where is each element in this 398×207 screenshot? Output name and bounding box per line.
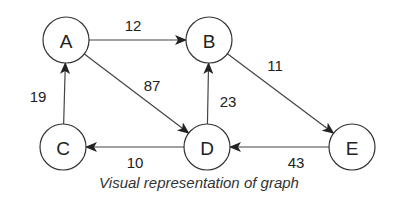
node-label: E: [346, 138, 359, 159]
node-label: D: [200, 138, 214, 159]
figure-caption: Visual representation of graph: [0, 174, 398, 191]
graph-figure: 12871923111043 ABCDE Visual representati…: [0, 0, 398, 207]
edge-c-to-a: [64, 63, 66, 124]
node-label: C: [56, 138, 70, 159]
node-d: D: [184, 124, 230, 170]
graph-canvas: 12871923111043 ABCDE: [0, 0, 398, 175]
edge-weight-label: 23: [220, 93, 237, 110]
edge-weight-label: 11: [267, 57, 283, 74]
edge-weight-label: 12: [125, 17, 142, 34]
node-c: C: [40, 124, 86, 170]
edge-d-to-b: [207, 63, 208, 124]
edge-weight-label: 19: [30, 88, 47, 105]
node-a: A: [43, 17, 89, 63]
node-label: A: [60, 31, 73, 52]
edge-weight-label: 10: [127, 154, 144, 171]
node-b: B: [186, 17, 232, 63]
node-label: B: [203, 31, 216, 52]
edge-a-to-d: [84, 54, 188, 133]
edge-weight-label: 43: [288, 154, 305, 171]
node-e: E: [329, 124, 375, 170]
edge-weight-label: 87: [144, 77, 161, 94]
